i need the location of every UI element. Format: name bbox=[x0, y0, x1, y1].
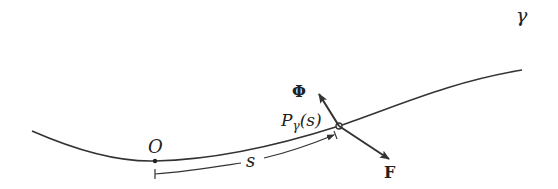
arc-length-label: s bbox=[246, 150, 255, 171]
point-label-sub: γ bbox=[292, 119, 299, 133]
point-label-main: P bbox=[281, 110, 292, 130]
curve-gamma bbox=[32, 70, 522, 161]
vector-phi-label: Φ bbox=[292, 82, 306, 101]
diagram-canvas: γ O s Φ F Pγ(s) bbox=[0, 0, 558, 189]
vector-f-label: F bbox=[384, 163, 395, 182]
point-label-arg: (s) bbox=[300, 110, 322, 130]
origin-point bbox=[153, 159, 157, 163]
vector-f bbox=[339, 126, 389, 159]
arc-length-end-tick bbox=[334, 131, 337, 139]
diagram-svg bbox=[0, 0, 558, 189]
origin-label: O bbox=[148, 136, 163, 157]
arc-length-line-a bbox=[155, 163, 241, 174]
point-label: Pγ(s) bbox=[281, 110, 322, 133]
curve-label: γ bbox=[516, 4, 527, 26]
vector-phi bbox=[319, 94, 339, 126]
